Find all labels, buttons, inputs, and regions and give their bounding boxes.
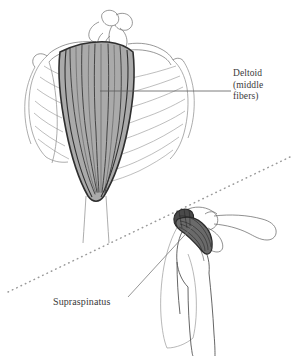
label-deltoid-line3: fibers)	[233, 91, 263, 103]
dotted-diagonal-divider	[8, 157, 290, 292]
illustration-page: Deltoid (middle fibers) Supraspinatus	[0, 0, 296, 356]
anterior-shoulder-panel	[128, 207, 276, 356]
torso-lower-outline	[83, 196, 109, 243]
anatomy-figure	[0, 0, 296, 356]
posterior-shoulder-panel	[25, 10, 231, 243]
scapula-body	[161, 226, 197, 348]
supraspinatus-muscle-shape	[174, 209, 212, 254]
label-supraspinatus: Supraspinatus	[53, 296, 110, 308]
clavicle-right	[128, 43, 184, 65]
label-deltoid-line1: Deltoid	[233, 68, 263, 80]
scapula-right	[170, 60, 194, 159]
label-supraspinatus-text: Supraspinatus	[53, 296, 110, 308]
label-deltoid: Deltoid (middle fibers)	[233, 68, 263, 103]
label-deltoid-line2: (middle	[233, 80, 263, 92]
humerus-shaft	[177, 262, 215, 356]
supraspinatus-leader-line	[128, 226, 193, 297]
